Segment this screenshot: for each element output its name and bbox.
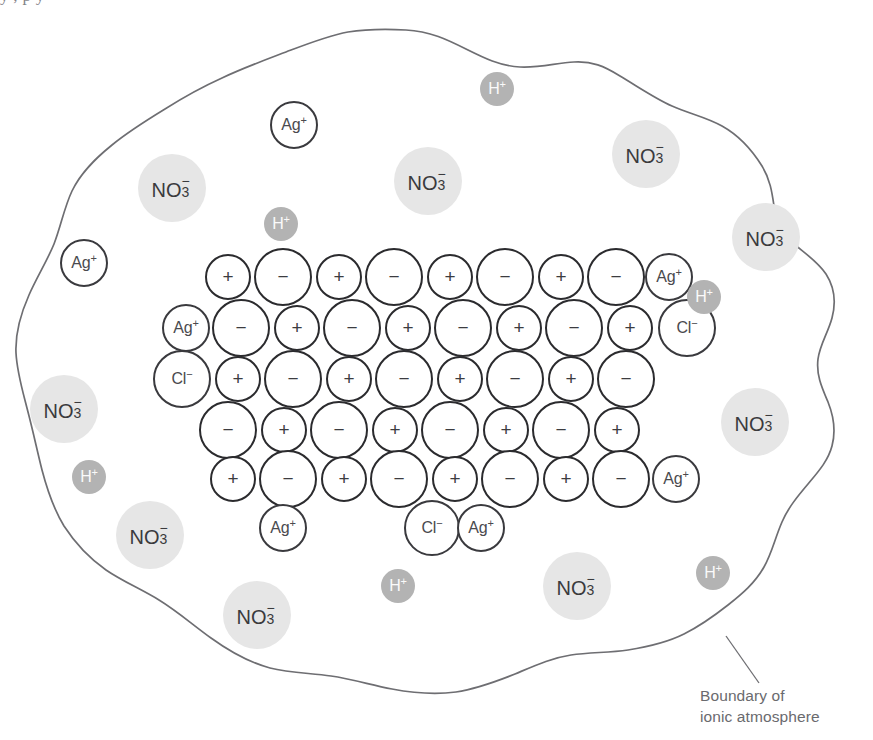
boundary-leader-line	[726, 636, 759, 683]
nitrate-ion: NO−3	[543, 552, 611, 620]
lattice-anion: −	[199, 401, 257, 459]
lattice-silver-ion: Ag+	[162, 304, 210, 352]
lattice-cation: +	[437, 356, 483, 402]
lattice-anion: −	[259, 450, 317, 508]
nitrate-ion: NO−3	[30, 375, 98, 443]
charge-sign: −	[504, 469, 515, 488]
lattice-anion: −	[421, 401, 479, 459]
lattice-cation: +	[261, 407, 307, 453]
lattice-cation: +	[543, 456, 589, 502]
nitrate-ion: NO−3	[732, 203, 800, 271]
charge-sign: −	[388, 267, 399, 286]
hydrogen-ion: H+	[72, 460, 106, 494]
lattice-anion: −	[532, 401, 590, 459]
charge-sign: +	[560, 469, 571, 488]
ionic-atmosphere-figure: y , p y +−+−+−+−Ag+Ag+−+−+−+−+Cl−Cl−+−+−…	[0, 0, 873, 740]
charge-sign: −	[282, 469, 293, 488]
charge-sign: −	[615, 469, 626, 488]
lattice-cation: +	[496, 305, 542, 351]
lattice-anion: −	[310, 401, 368, 459]
nitrate-ion: NO−3	[138, 154, 206, 222]
charge-sign: +	[611, 420, 622, 439]
hydrogen-ion: H+	[480, 72, 514, 106]
charge-sign: −	[444, 420, 455, 439]
lattice-cation: +	[215, 356, 261, 402]
lattice-anion: −	[370, 450, 428, 508]
charge-sign: +	[449, 469, 460, 488]
lattice-anion: −	[476, 248, 534, 306]
nitrate-ion: NO−3	[612, 120, 680, 188]
charge-sign: −	[393, 469, 404, 488]
lattice-anion: −	[597, 350, 655, 408]
boundary-caption: Boundary of ionic atmosphere	[700, 686, 865, 728]
lattice-cation: +	[432, 456, 478, 502]
lattice-cation: +	[538, 254, 584, 300]
charge-sign: −	[610, 267, 621, 286]
charge-sign: +	[624, 318, 635, 337]
lattice-anion: −	[481, 450, 539, 508]
lattice-cation: +	[205, 254, 251, 300]
charge-sign: −	[235, 318, 246, 337]
hydrogen-ion: H+	[696, 556, 730, 590]
charge-sign: −	[499, 267, 510, 286]
charge-sign: −	[398, 369, 409, 388]
charge-sign: −	[346, 318, 357, 337]
charge-sign: −	[222, 420, 233, 439]
lattice-cation: +	[372, 407, 418, 453]
charge-sign: +	[232, 369, 243, 388]
lattice-cation: +	[385, 305, 431, 351]
lattice-silver-ion: Ag+	[652, 455, 700, 503]
lattice-chloride-ion: Cl−	[404, 500, 460, 556]
charge-sign: +	[513, 318, 524, 337]
ionic-atmosphere-boundary	[0, 0, 873, 740]
charge-sign: +	[278, 420, 289, 439]
lattice-anion: −	[434, 299, 492, 357]
free-silver-ion: Ag+	[60, 239, 108, 287]
lattice-anion: −	[587, 248, 645, 306]
caption-line-1: Boundary of	[700, 686, 865, 707]
charge-sign: +	[338, 469, 349, 488]
charge-sign: −	[509, 369, 520, 388]
caption-line-2: ionic atmosphere	[700, 707, 865, 728]
lattice-cation: +	[326, 356, 372, 402]
lattice-cation: +	[427, 254, 473, 300]
charge-sign: +	[555, 267, 566, 286]
lattice-cation: +	[548, 356, 594, 402]
nitrate-ion: NO−3	[223, 581, 291, 649]
lattice-cation: +	[210, 456, 256, 502]
charge-sign: +	[565, 369, 576, 388]
hydrogen-ion: H+	[381, 569, 415, 603]
charge-sign: +	[291, 318, 302, 337]
lattice-silver-ion: Ag+	[259, 504, 307, 552]
lattice-anion: −	[375, 350, 433, 408]
charge-sign: −	[620, 369, 631, 388]
charge-sign: +	[402, 318, 413, 337]
lattice-chloride-ion: Cl−	[153, 350, 211, 408]
lattice-silver-ion: Ag+	[645, 253, 693, 301]
charge-sign: +	[444, 267, 455, 286]
nitrate-ion: NO−3	[116, 501, 184, 569]
charge-sign: +	[389, 420, 400, 439]
charge-sign: −	[555, 420, 566, 439]
lattice-anion: −	[486, 350, 544, 408]
lattice-anion: −	[545, 299, 603, 357]
charge-sign: −	[457, 318, 468, 337]
hydrogen-ion: H+	[687, 280, 721, 314]
lattice-anion: −	[323, 299, 381, 357]
charge-sign: +	[343, 369, 354, 388]
charge-sign: −	[568, 318, 579, 337]
charge-sign: +	[227, 469, 238, 488]
charge-sign: −	[287, 369, 298, 388]
nitrate-ion: NO−3	[721, 388, 789, 456]
hydrogen-ion: H+	[264, 207, 298, 241]
lattice-cation: +	[321, 456, 367, 502]
lattice-anion: −	[212, 299, 270, 357]
charge-sign: −	[277, 267, 288, 286]
lattice-anion: −	[264, 350, 322, 408]
free-silver-ion: Ag+	[270, 101, 318, 149]
charge-sign: +	[333, 267, 344, 286]
lattice-cation: +	[316, 254, 362, 300]
lattice-cation: +	[274, 305, 320, 351]
lattice-anion: −	[254, 248, 312, 306]
lattice-anion: −	[365, 248, 423, 306]
